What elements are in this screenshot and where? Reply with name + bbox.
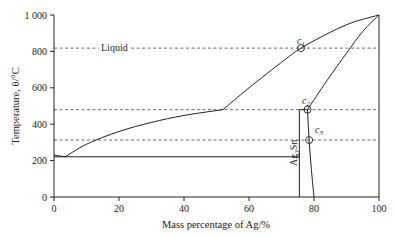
x-axis-title: Mass percentage of Ag/% bbox=[162, 219, 270, 230]
curve-liquidus-to-peritectic bbox=[65, 110, 223, 157]
y-tick-label-0: 0 bbox=[42, 192, 47, 203]
y-tick-label-800: 800 bbox=[32, 46, 47, 57]
x-tick-label-20: 20 bbox=[114, 203, 124, 214]
c3-label: c3 bbox=[315, 124, 323, 137]
x-tick-label-40: 40 bbox=[179, 203, 189, 214]
curve-solidus-ag-rich bbox=[308, 15, 380, 110]
phase-diagram-chart: 02004006008001 000020406080100 Mass perc… bbox=[0, 0, 396, 238]
x-tick-label-60: 60 bbox=[244, 203, 254, 214]
liquid-label: Liquid bbox=[101, 42, 128, 53]
y-tick-label-200: 200 bbox=[32, 155, 47, 166]
y-tick-label-400: 400 bbox=[32, 119, 47, 130]
curve-liquidus-ag-side bbox=[223, 15, 379, 110]
x-tick-label-100: 100 bbox=[372, 203, 387, 214]
y-tick-label-600: 600 bbox=[32, 82, 47, 93]
curve-solvus-ag-rich bbox=[308, 110, 315, 197]
x-tick-label-80: 80 bbox=[309, 203, 319, 214]
x-tick-label-0: 0 bbox=[52, 203, 57, 214]
y-axis-title: Temperature, θ/°C bbox=[10, 67, 21, 144]
c2-label: c2 bbox=[302, 95, 310, 108]
y-tick-label-1000: 1 000 bbox=[25, 10, 48, 21]
